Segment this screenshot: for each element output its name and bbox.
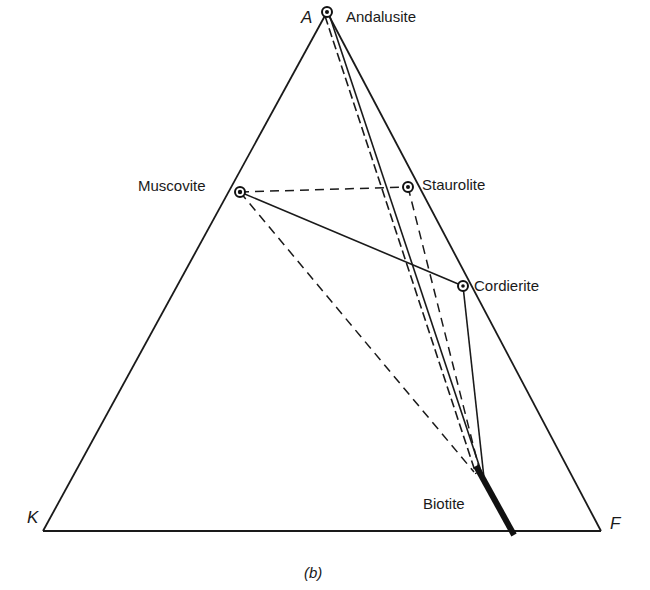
figure-caption: (b) bbox=[304, 564, 322, 581]
tie-line-muscovite-biotite bbox=[240, 192, 474, 472]
label-staurolite: Staurolite bbox=[422, 176, 485, 193]
akf-diagram: A K F Andalusite Muscovite Staurolite Co… bbox=[0, 0, 650, 590]
triangle-outline bbox=[43, 12, 601, 531]
label-cordierite: Cordierite bbox=[474, 277, 539, 294]
tie-lines bbox=[240, 14, 484, 478]
corner-label-a: A bbox=[300, 8, 312, 27]
point-andalusite bbox=[322, 7, 332, 17]
tie-line-andalusite-biotite-solid bbox=[329, 14, 482, 474]
label-andalusite: Andalusite bbox=[346, 8, 416, 25]
tie-line-staurolite-biotite bbox=[408, 187, 480, 472]
label-biotite: Biotite bbox=[423, 495, 465, 512]
label-muscovite: Muscovite bbox=[138, 177, 206, 194]
phase-points bbox=[235, 7, 468, 291]
biotite-band bbox=[476, 466, 514, 535]
edge-a-f bbox=[327, 12, 601, 531]
point-muscovite bbox=[235, 187, 245, 197]
tie-line-andalusite-biotite-dashed bbox=[325, 16, 476, 474]
point-cordierite bbox=[458, 281, 468, 291]
corner-label-k: K bbox=[27, 508, 39, 527]
point-staurolite bbox=[403, 182, 413, 192]
edge-a-k bbox=[43, 12, 327, 531]
corner-label-f: F bbox=[610, 514, 622, 533]
